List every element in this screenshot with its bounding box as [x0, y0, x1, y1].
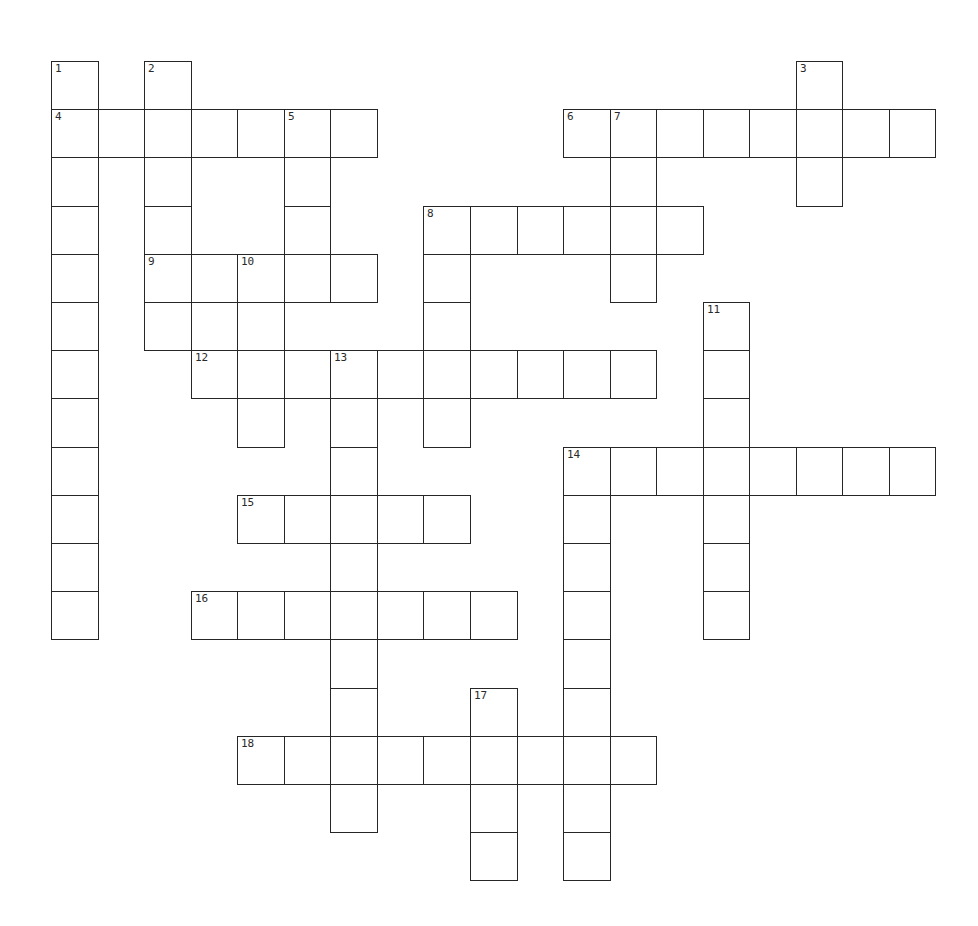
letter-input[interactable] [704, 448, 749, 495]
crossword-cell-r11-c14[interactable] [703, 591, 750, 640]
crossword-cell-r13-c6[interactable] [330, 688, 378, 737]
crossword-cell-r1-c15[interactable] [749, 109, 797, 158]
crossword-cell-r2-c2[interactable] [144, 157, 192, 207]
letter-input[interactable] [704, 496, 749, 543]
crossword-cell-r6-c3[interactable]: 12 [191, 350, 238, 399]
letter-input[interactable] [704, 399, 749, 447]
letter-input[interactable] [238, 255, 284, 302]
letter-input[interactable] [564, 351, 610, 398]
letter-input[interactable] [52, 207, 98, 254]
crossword-cell-r0-c16[interactable]: 3 [796, 61, 843, 110]
crossword-cell-r15-c11[interactable] [563, 784, 611, 833]
letter-input[interactable] [52, 62, 98, 109]
crossword-cell-r1-c14[interactable] [703, 109, 750, 158]
letter-input[interactable] [750, 110, 796, 157]
crossword-cell-r8-c15[interactable] [749, 447, 797, 496]
letter-input[interactable] [99, 110, 144, 157]
crossword-cell-r9-c5[interactable] [284, 495, 331, 544]
letter-input[interactable] [238, 399, 284, 447]
letter-input[interactable] [611, 110, 656, 157]
letter-input[interactable] [52, 496, 98, 543]
crossword-cell-r9-c4[interactable]: 15 [237, 495, 285, 544]
crossword-cell-r14-c5[interactable] [284, 736, 331, 785]
crossword-cell-r16-c11[interactable] [563, 832, 611, 881]
crossword-cell-r8-c13[interactable] [656, 447, 704, 496]
crossword-cell-r12-c11[interactable] [563, 639, 611, 689]
crossword-cell-r13-c11[interactable] [563, 688, 611, 737]
crossword-cell-r4-c12[interactable] [610, 254, 657, 303]
letter-input[interactable] [471, 833, 517, 880]
crossword-cell-r3-c0[interactable] [51, 206, 99, 255]
letter-input[interactable] [843, 110, 889, 157]
letter-input[interactable] [471, 689, 517, 736]
letter-input[interactable] [192, 303, 237, 350]
crossword-cell-r7-c0[interactable] [51, 398, 99, 448]
letter-input[interactable] [611, 737, 656, 784]
crossword-cell-r1-c12[interactable]: 7 [610, 109, 657, 158]
crossword-cell-r4-c3[interactable] [191, 254, 238, 303]
crossword-cell-r3-c5[interactable] [284, 206, 331, 255]
letter-input[interactable] [52, 303, 98, 350]
crossword-cell-r13-c9[interactable]: 17 [470, 688, 518, 737]
letter-input[interactable] [378, 592, 423, 639]
letter-input[interactable] [424, 592, 470, 639]
crossword-cell-r5-c8[interactable] [423, 302, 471, 351]
letter-input[interactable] [797, 448, 842, 495]
letter-input[interactable] [331, 448, 377, 495]
crossword-cell-r4-c5[interactable] [284, 254, 331, 303]
crossword-cell-r6-c9[interactable] [470, 350, 518, 399]
letter-input[interactable] [331, 351, 377, 398]
letter-input[interactable] [331, 592, 377, 639]
letter-input[interactable] [564, 640, 610, 688]
crossword-cell-r14-c8[interactable] [423, 736, 471, 785]
letter-input[interactable] [52, 255, 98, 302]
crossword-cell-r5-c2[interactable] [144, 302, 192, 351]
crossword-cell-r14-c10[interactable] [517, 736, 564, 785]
crossword-cell-r6-c0[interactable] [51, 350, 99, 399]
letter-input[interactable] [192, 592, 237, 639]
crossword-cell-r6-c4[interactable] [237, 350, 285, 399]
letter-input[interactable] [564, 833, 610, 880]
crossword-cell-r11-c11[interactable] [563, 591, 611, 640]
letter-input[interactable] [331, 689, 377, 736]
crossword-cell-r6-c12[interactable] [610, 350, 657, 399]
letter-input[interactable] [238, 737, 284, 784]
letter-input[interactable] [331, 640, 377, 688]
letter-input[interactable] [657, 110, 703, 157]
crossword-cell-r1-c2[interactable] [144, 109, 192, 158]
letter-input[interactable] [145, 207, 191, 254]
letter-input[interactable] [285, 207, 330, 254]
letter-input[interactable] [657, 207, 703, 254]
crossword-cell-r2-c16[interactable] [796, 157, 843, 207]
crossword-cell-r1-c1[interactable] [98, 109, 145, 158]
crossword-cell-r8-c16[interactable] [796, 447, 843, 496]
crossword-cell-r7-c14[interactable] [703, 398, 750, 448]
crossword-cell-r6-c7[interactable] [377, 350, 424, 399]
crossword-cell-r1-c3[interactable] [191, 109, 238, 158]
letter-input[interactable] [890, 110, 935, 157]
letter-input[interactable] [564, 544, 610, 591]
crossword-cell-r5-c14[interactable]: 11 [703, 302, 750, 351]
crossword-cell-r14-c4[interactable]: 18 [237, 736, 285, 785]
crossword-cell-r1-c11[interactable]: 6 [563, 109, 611, 158]
crossword-cell-r11-c6[interactable] [330, 591, 378, 640]
letter-input[interactable] [52, 351, 98, 398]
crossword-cell-r9-c0[interactable] [51, 495, 99, 544]
crossword-cell-r11-c0[interactable] [51, 591, 99, 640]
letter-input[interactable] [285, 496, 330, 543]
letter-input[interactable] [843, 448, 889, 495]
letter-input[interactable] [192, 255, 237, 302]
crossword-cell-r11-c4[interactable] [237, 591, 285, 640]
crossword-cell-r8-c18[interactable] [889, 447, 936, 496]
letter-input[interactable] [518, 351, 563, 398]
crossword-cell-r16-c9[interactable] [470, 832, 518, 881]
crossword-cell-r3-c11[interactable] [563, 206, 611, 255]
letter-input[interactable] [564, 737, 610, 784]
crossword-cell-r9-c14[interactable] [703, 495, 750, 544]
letter-input[interactable] [285, 737, 330, 784]
letter-input[interactable] [238, 351, 284, 398]
crossword-cell-r7-c6[interactable] [330, 398, 378, 448]
crossword-cell-r5-c4[interactable] [237, 302, 285, 351]
crossword-cell-r8-c14[interactable] [703, 447, 750, 496]
letter-input[interactable] [238, 496, 284, 543]
